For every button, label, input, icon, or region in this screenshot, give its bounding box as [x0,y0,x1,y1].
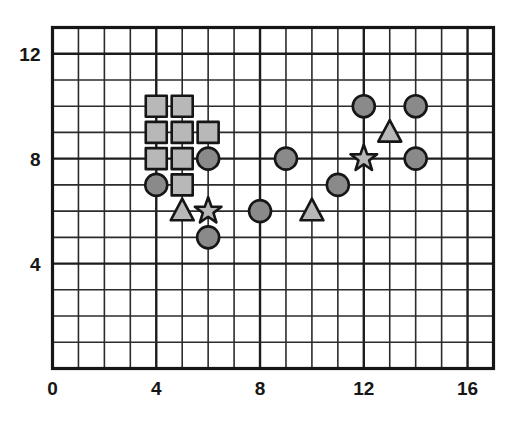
data-point-circle [405,95,427,117]
data-point-square [172,122,193,143]
data-point-circle [353,95,375,117]
data-point-circle [405,148,427,170]
data-point-circle [197,226,219,248]
y-tick-label: 8 [30,149,41,170]
y-tick-label: 12 [19,44,40,65]
x-tick-label: 16 [457,378,478,399]
data-point-square [146,122,167,143]
data-point-circle [249,200,271,222]
x-tick-label: 4 [151,378,162,399]
data-point-square [146,148,167,169]
data-point-square [172,148,193,169]
data-point-circle [197,148,219,170]
x-tick-label: 8 [255,378,266,399]
scatter-plot-figure: 0481216 4812 [0,0,518,422]
data-point-square [172,96,193,117]
data-point-square [198,122,219,143]
x-tick-label: 0 [47,378,58,399]
data-point-square [146,96,167,117]
x-tick-label: 12 [353,378,374,399]
y-tick-label: 4 [30,254,41,275]
data-point-circle [327,174,349,196]
data-point-circle [145,174,167,196]
plot-canvas: 0481216 4812 [0,0,518,422]
data-point-circle [275,148,297,170]
data-point-square [172,174,193,195]
